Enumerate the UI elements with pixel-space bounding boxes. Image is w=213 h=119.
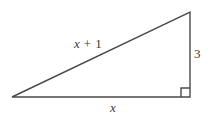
hypotenuse-remainder: + 1 <box>80 36 102 51</box>
horizontal-leg-label: x <box>110 101 116 114</box>
right-angle-marker-icon <box>181 88 190 97</box>
right-triangle-figure: x + 1 3 x <box>0 0 213 119</box>
hypotenuse-label: x + 1 <box>74 37 102 50</box>
triangle-outline <box>12 12 190 97</box>
triangle-drawing <box>0 0 213 119</box>
horizontal-leg-variable: x <box>110 100 116 115</box>
vertical-leg-label: 3 <box>194 47 201 60</box>
